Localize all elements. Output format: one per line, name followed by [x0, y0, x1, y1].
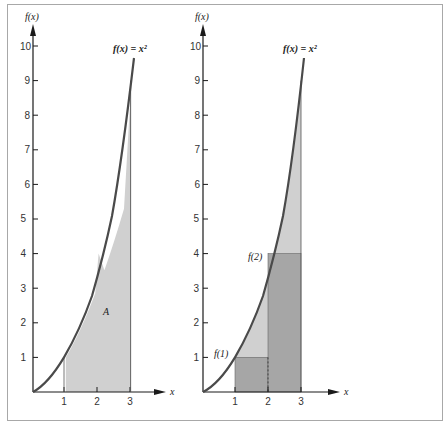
svg-text:2: 2 [94, 396, 100, 407]
y-ticks [33, 46, 38, 357]
svg-text:10: 10 [20, 41, 32, 52]
left-curve-label: f(x) = x² [113, 43, 148, 55]
right-x-axis-label: x [343, 386, 349, 397]
area-label: A [102, 306, 110, 317]
svg-text:4: 4 [193, 248, 199, 259]
svg-text:1: 1 [20, 352, 26, 363]
right-y-tick-labels: 1 2 3 4 5 6 7 8 9 10 [190, 41, 202, 363]
svg-text:4: 4 [20, 248, 26, 259]
left-x-tick-labels: 1 2 3 [61, 396, 133, 407]
y-axis-arrow-icon [30, 24, 36, 36]
riemann-rect-f1 [235, 357, 268, 392]
y-ticks-2 [203, 46, 208, 357]
svg-text:1: 1 [193, 352, 199, 363]
x-axis-arrow-icon [154, 389, 166, 395]
svg-text:2: 2 [193, 317, 199, 328]
svg-text:9: 9 [194, 75, 200, 86]
svg-text:3: 3 [298, 396, 304, 407]
svg-text:7: 7 [194, 144, 200, 155]
f2-label: f(2) [248, 251, 263, 263]
svg-text:5: 5 [20, 213, 26, 224]
figure-canvas: f(x) x f(x) = x² A 1 2 3 4 5 6 7 8 9 10 … [0, 0, 446, 429]
svg-text:5: 5 [193, 213, 199, 224]
svg-text:3: 3 [127, 396, 133, 407]
svg-text:2: 2 [265, 396, 271, 407]
x-axis-arrow-icon-2 [328, 389, 340, 395]
svg-text:1: 1 [61, 396, 67, 407]
area-a-region [66, 81, 132, 392]
svg-text:1: 1 [232, 396, 238, 407]
left-y-tick-labels: 1 2 3 4 5 6 7 8 9 10 [20, 41, 32, 363]
left-x-axis-label: x [169, 386, 175, 397]
svg-text:8: 8 [24, 110, 30, 121]
right-curve-label: f(x) = x² [283, 43, 318, 55]
svg-text:10: 10 [190, 41, 202, 52]
left-panel [30, 24, 166, 395]
y-axis-arrow-icon-2 [200, 24, 206, 36]
right-panel [200, 24, 340, 395]
f1-label: f(1) [214, 348, 229, 360]
svg-text:3: 3 [20, 283, 26, 294]
svg-text:6: 6 [194, 179, 200, 190]
svg-text:8: 8 [194, 110, 200, 121]
right-x-tick-labels: 1 2 3 [232, 396, 304, 407]
left-y-axis-label: f(x) [25, 11, 40, 23]
riemann-rect-f2 [268, 254, 301, 392]
right-y-axis-label: f(x) [195, 11, 210, 23]
svg-text:9: 9 [24, 75, 30, 86]
svg-text:2: 2 [20, 317, 26, 328]
svg-text:6: 6 [24, 179, 30, 190]
svg-text:3: 3 [193, 283, 199, 294]
svg-text:7: 7 [24, 144, 30, 155]
